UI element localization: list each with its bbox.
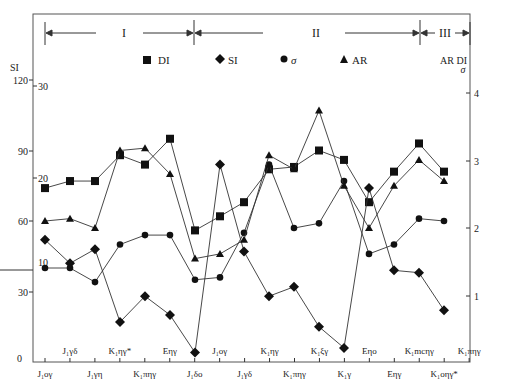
data-point-circle-marker-icon: [192, 276, 199, 283]
data-point-diamond-marker-icon: [289, 282, 299, 292]
phase-bar: [45, 20, 470, 45]
data-point-square-marker-icon: [415, 139, 423, 147]
left-axis: SI 120 90 60 30 0 30 20 10: [0, 62, 48, 364]
right-tick-3: 3: [474, 156, 479, 167]
data-point-square-marker-icon: [240, 198, 248, 206]
data-point-circle-marker-icon: [291, 225, 298, 232]
data-point-diamond-marker-icon: [215, 160, 225, 170]
right-tick-4: 4: [474, 88, 479, 99]
phase-label-ii: II: [312, 26, 320, 40]
data-point-diamond-marker-icon: [364, 183, 374, 193]
left-axis-title: SI: [10, 62, 19, 73]
data-point-triangle-marker-icon: [66, 215, 74, 222]
data-point-square-marker-icon: [340, 156, 348, 164]
data-point-square-marker-icon: [390, 168, 398, 176]
series-group: [40, 107, 449, 358]
data-point-diamond-marker-icon: [90, 244, 100, 254]
data-point-square-marker-icon: [440, 168, 448, 176]
x-label-bottom: Eηγ: [387, 369, 401, 379]
data-point-square-marker-icon: [166, 135, 174, 143]
data-point-square-marker-icon: [66, 177, 74, 185]
legend-diamond-icon: [215, 54, 225, 64]
data-point-circle-marker-icon: [441, 218, 448, 225]
legend-triangle-icon: [340, 55, 348, 63]
data-point-square-marker-icon: [141, 161, 149, 169]
data-point-triangle-marker-icon: [265, 151, 273, 158]
data-point-diamond-marker-icon: [190, 348, 200, 358]
x-label-top: K₁πηγ: [458, 346, 481, 356]
data-point-square-marker-icon: [91, 177, 99, 185]
data-point-circle-marker-icon: [316, 220, 323, 227]
chart: I II III DI SI σ AR SI 120 90 60 30 0 30…: [0, 0, 506, 389]
x-label-top: K₁ξγ: [311, 346, 329, 356]
data-point-square-marker-icon: [216, 212, 224, 220]
x-label-bottom: K₁γ: [338, 369, 352, 379]
data-point-triangle-marker-icon: [365, 224, 373, 231]
series-line-diamond: [45, 165, 444, 353]
data-point-square-marker-icon: [41, 184, 49, 192]
x-label-bottom: J₁oγ: [37, 369, 52, 379]
x-label-bottom: K₁πηγ: [133, 369, 156, 379]
x-axis-ticks: [45, 358, 469, 362]
data-point-circle-marker-icon: [391, 241, 398, 248]
data-point-circle-marker-icon: [167, 232, 174, 239]
x-label-bottom: K₁πηγ: [283, 369, 306, 379]
data-point-square-marker-icon: [191, 226, 199, 234]
x-label-top: K₁ηγ*: [108, 346, 131, 356]
right-axis: AR DI σ 4 3 2 1: [440, 55, 479, 302]
x-label-top: Eηγ: [163, 346, 177, 356]
data-point-circle-marker-icon: [366, 251, 373, 258]
legend-circle-icon: [281, 56, 288, 63]
si-tick-0: 0: [17, 353, 22, 364]
data-point-diamond-marker-icon: [239, 247, 249, 257]
data-point-triangle-marker-icon: [216, 250, 224, 257]
x-label-bottom: J₁δo: [187, 369, 203, 379]
data-point-triangle-marker-icon: [141, 144, 149, 151]
di-tick-30: 30: [38, 81, 48, 92]
phase-label-iii: III: [439, 26, 451, 40]
x-label-bottom: J₁γδ: [237, 369, 252, 379]
si-tick-90: 90: [18, 146, 28, 157]
data-point-diamond-marker-icon: [389, 265, 399, 275]
plot-frame: [33, 14, 470, 362]
data-point-diamond-marker-icon: [264, 291, 274, 301]
right-tick-1: 1: [474, 291, 479, 302]
x-label-top: J₁γδ: [63, 346, 78, 356]
legend: DI SI σ AR: [143, 54, 368, 66]
si-tick-30: 30: [18, 287, 28, 298]
series-line-triangle: [45, 111, 444, 259]
data-point-circle-marker-icon: [42, 265, 49, 272]
data-point-diamond-marker-icon: [439, 305, 449, 315]
data-point-circle-marker-icon: [117, 241, 124, 248]
si-tick-120: 120: [13, 75, 28, 86]
legend-label-ar: AR: [352, 54, 368, 66]
data-point-circle-marker-icon: [67, 265, 74, 272]
data-point-diamond-marker-icon: [165, 310, 175, 320]
x-label-top: K₁ηγ: [260, 346, 278, 356]
right-tick-2: 2: [474, 223, 479, 234]
si-tick-60: 60: [18, 216, 28, 227]
x-label-bottom: K₁oηγ*: [431, 369, 459, 379]
data-point-triangle-marker-icon: [415, 156, 423, 163]
phase-label-i: I: [122, 26, 126, 40]
data-point-circle-marker-icon: [416, 215, 423, 222]
legend-square-icon: [143, 56, 151, 64]
di-tick-20: 20: [38, 173, 48, 184]
data-point-diamond-marker-icon: [414, 268, 424, 278]
x-label-bottom: J₁γη: [87, 369, 103, 379]
x-label-top: K₁mcηγ: [405, 346, 434, 356]
data-point-circle-marker-icon: [217, 274, 224, 281]
legend-label-si: SI: [228, 54, 238, 66]
series-line-square: [45, 139, 444, 231]
data-point-triangle-marker-icon: [91, 224, 99, 231]
series-line-circle: [45, 165, 444, 283]
data-point-triangle-marker-icon: [240, 236, 248, 243]
x-label-top: Eηo: [362, 346, 377, 356]
legend-label-di: DI: [158, 54, 170, 66]
x-label-top: J₁oγ: [212, 346, 227, 356]
data-point-square-marker-icon: [315, 147, 323, 155]
legend-label-sigma: σ: [291, 54, 297, 66]
data-point-triangle-marker-icon: [315, 107, 323, 114]
data-point-circle-marker-icon: [92, 279, 99, 286]
data-point-circle-marker-icon: [142, 232, 149, 239]
